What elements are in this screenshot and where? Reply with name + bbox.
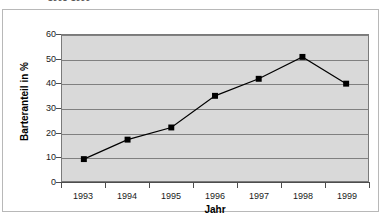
x-axis-tick (61, 183, 62, 188)
y-axis-tick (56, 83, 61, 84)
x-axis-tick (105, 183, 106, 188)
series-line (84, 57, 346, 159)
data-point-marker: 1996: 35 (212, 93, 218, 99)
y-axis-tick (56, 34, 61, 35)
y-axis-tick (56, 157, 61, 158)
x-axis-tick (325, 183, 326, 188)
x-axis-tick-label: 1994 (105, 191, 149, 201)
x-axis-tick (281, 183, 282, 188)
data-point-marker: 1999: 40 (343, 81, 349, 87)
x-axis-title: Jahr (61, 204, 369, 215)
x-axis-tick (369, 183, 370, 188)
data-point-marker: 1998: 51 (299, 54, 305, 60)
y-axis-tick (56, 133, 61, 134)
x-axis-tick (149, 183, 150, 188)
y-axis-title: Barteranteil in % (19, 32, 30, 172)
top-caption: 1993-1999 (48, 0, 168, 4)
x-axis-tick-label: 1995 (149, 191, 193, 201)
y-axis-tick (56, 108, 61, 109)
y-axis-tick-label: 0 (22, 178, 56, 187)
x-axis-tick-label: 1999 (325, 191, 369, 201)
data-series-line: 1993: 91994: 171995: 221996: 351997: 421… (62, 35, 368, 181)
data-point-marker: 1995: 22 (168, 125, 174, 131)
chart-figure: 1993-1999 6050403020100 Barteranteil in … (0, 0, 383, 223)
x-axis-tick-label: 1998 (281, 191, 325, 201)
x-axis-line (61, 182, 370, 183)
chart-frame: 6050403020100 Barteranteil in % 1993: 91… (2, 9, 379, 212)
data-point-marker: 1997: 42 (256, 76, 262, 82)
y-axis-tick (56, 59, 61, 60)
x-axis-tick-label: 1993 (61, 191, 105, 201)
x-axis-tick (193, 183, 194, 188)
x-axis-tick-label: 1997 (237, 191, 281, 201)
x-axis-tick (237, 183, 238, 188)
x-axis-tick-label: 1996 (193, 191, 237, 201)
data-point-marker: 1994: 17 (125, 137, 131, 143)
data-point-marker: 1993: 9 (81, 156, 87, 162)
plot-area: 1993: 91994: 171995: 221996: 351997: 421… (61, 34, 369, 182)
